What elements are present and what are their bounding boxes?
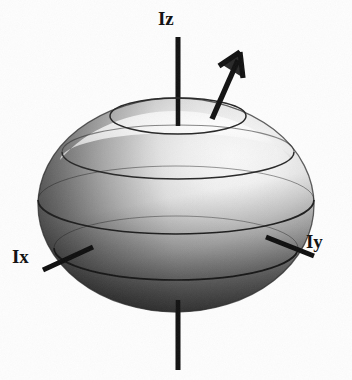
axis-label-iz: Iz <box>158 9 173 28</box>
diagram-canvas <box>0 0 352 380</box>
axis-label-ix: Ix <box>12 247 29 266</box>
axis-label-iy: Iy <box>306 232 323 251</box>
sphere-diagram-figure: Iz Ix Iy <box>0 0 352 380</box>
